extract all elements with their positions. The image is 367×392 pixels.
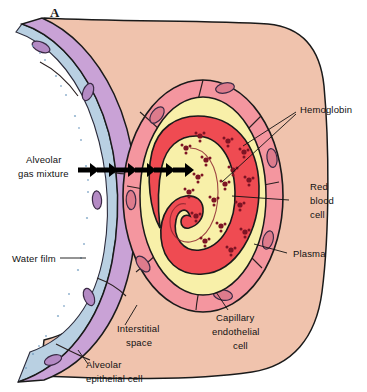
label-capillary-endothelial-cell-line-2: endothelial xyxy=(212,326,260,337)
label-red-blood-cell-line-1: Red xyxy=(310,181,328,192)
alveolar-capillary-diagram: A Alveolar gas mixture Water film Alveol… xyxy=(0,0,367,392)
label-alveolar-gas-mixture-line-2: gas mixture xyxy=(18,168,69,179)
label-capillary-endothelial-cell-line-1: Capillary xyxy=(216,312,254,323)
label-plasma: Plasma xyxy=(293,248,326,259)
label-red-blood-cell-line-3: cell xyxy=(310,209,325,220)
label-water-film-line-1: Water film xyxy=(12,253,56,264)
label-hemoglobin-line-1: Hemoglobin xyxy=(300,104,352,115)
label-water-film: Water film xyxy=(12,253,56,264)
label-interstitial-space-line-1: Interstitial xyxy=(117,323,159,334)
label-red-blood-cell-line-2: blood xyxy=(310,195,334,206)
label-capillary-endothelial-cell-line-3: cell xyxy=(233,340,248,351)
label-interstitial-space-line-2: space xyxy=(126,337,152,348)
label-alveolar-gas-mixture-line-1: Alveolar xyxy=(26,154,62,165)
label-alveolar-epithelial-cell-line-1: Alveolar xyxy=(86,359,122,370)
label-plasma-line-1: Plasma xyxy=(293,248,326,259)
figure-root: A Alveolar gas mixture Water film Alveol… xyxy=(0,0,367,392)
label-alveolar-epithelial-cell-line-2: epithelial cell xyxy=(86,373,143,384)
endothelial-nucleus-left xyxy=(126,190,136,210)
panel-letter-a: A xyxy=(50,5,60,20)
label-hemoglobin: Hemoglobin xyxy=(300,104,352,115)
